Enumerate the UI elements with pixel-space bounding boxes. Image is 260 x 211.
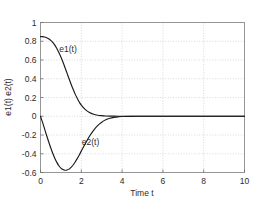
y-tick-label: -0.6 <box>22 168 37 178</box>
x-tick-label: 8 <box>201 176 206 186</box>
figure-canvas: 0246810 -0.6-0.4-0.200.20.40.60.81 e1(t)… <box>0 0 260 211</box>
x-tick-label: 2 <box>79 176 84 186</box>
x-tick-label: 0 <box>38 176 43 186</box>
y-tick-label: 0.8 <box>25 36 37 46</box>
series-label-2: e2(t) <box>82 137 100 147</box>
x-tick-label: 4 <box>120 176 125 186</box>
y-tick-label: 0.2 <box>25 93 37 103</box>
series-label-1: e1(t) <box>59 44 77 54</box>
y-axis-tick-labels: -0.6-0.4-0.200.20.40.60.81 <box>22 18 37 178</box>
y-tick-label: -0.2 <box>22 130 37 140</box>
y-tick-label: -0.4 <box>22 149 37 159</box>
y-axis-title: e1(t) e2(t) <box>3 78 13 115</box>
line-chart: 0246810 -0.6-0.4-0.200.20.40.60.81 e1(t)… <box>0 0 260 211</box>
x-axis-title: Time t <box>130 188 154 198</box>
y-tick-label: 1 <box>32 18 37 28</box>
y-tick-label: 0.4 <box>25 74 37 84</box>
y-tick-label: 0.6 <box>25 55 37 65</box>
x-tick-label: 10 <box>240 176 250 186</box>
x-tick-label: 6 <box>161 176 166 186</box>
y-tick-label: 0 <box>32 111 37 121</box>
